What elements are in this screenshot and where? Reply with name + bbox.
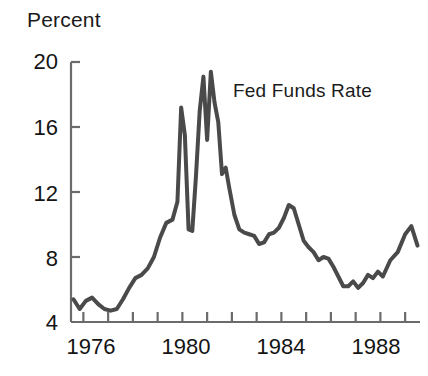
plot-area (0, 0, 428, 376)
y-axis-ticks (71, 62, 80, 257)
axis-lines (71, 62, 420, 322)
fed-funds-rate-line (73, 72, 417, 311)
fed-funds-rate-chart: Percent Fed Funds Rate 20 16 12 8 4 1976… (0, 0, 428, 376)
x-axis-ticks (83, 312, 405, 322)
